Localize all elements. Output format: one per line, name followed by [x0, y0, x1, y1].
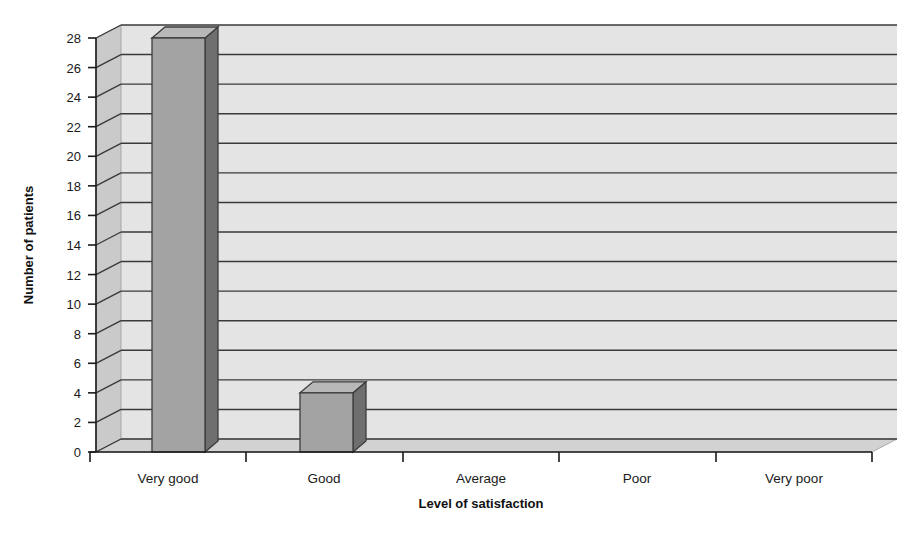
category-label-very-poor: Very poor: [765, 471, 823, 486]
y-tick-label: 4: [74, 386, 81, 401]
bar-chart-3d: 0 2 4 6 8 10 12 14 16 18 20 22 24 26 28 …: [0, 0, 897, 543]
category-label-very-good: Very good: [138, 471, 199, 486]
bar-side-face: [205, 27, 218, 452]
y-tick-label: 20: [67, 149, 81, 164]
bar-front-face: [300, 393, 353, 452]
y-tick-label: 22: [67, 120, 81, 135]
chart-container: 0 2 4 6 8 10 12 14 16 18 20 22 24 26 28 …: [0, 0, 897, 543]
bar-good: [300, 382, 366, 452]
category-label-poor: Poor: [623, 471, 652, 486]
y-tick-label: 28: [67, 31, 81, 46]
y-tick-label: 18: [67, 179, 81, 194]
category-label-average: Average: [456, 471, 506, 486]
x-axis-title: Level of satisfaction: [419, 496, 544, 511]
y-tick-label: 2: [74, 415, 81, 430]
y-tick-label: 14: [67, 238, 81, 253]
bar-very-good: [152, 27, 218, 452]
y-tick-label: 26: [67, 61, 81, 76]
bar-front-face: [152, 38, 205, 452]
y-tick-label: 8: [74, 327, 81, 342]
y-tick-label: 6: [74, 356, 81, 371]
bar-side-face: [353, 382, 366, 452]
y-tick-label: 24: [67, 90, 81, 105]
y-tick-label: 0: [74, 445, 81, 460]
y-tick-label: 10: [67, 297, 81, 312]
y-axis-title: Number of patients: [21, 186, 36, 304]
category-label-good: Good: [307, 471, 340, 486]
y-tick-label: 16: [67, 208, 81, 223]
y-tick-label: 12: [67, 268, 81, 283]
